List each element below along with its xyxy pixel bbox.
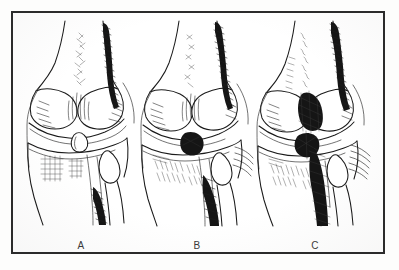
panel-label-c: C	[253, 240, 377, 251]
knee-illustration-b	[135, 19, 259, 227]
dense-ink-band-tibia-a	[93, 187, 106, 225]
figure-frame-border: A	[11, 11, 385, 254]
panel-label-a: A	[19, 240, 143, 251]
trabecular-hatching-c	[269, 159, 316, 190]
soft-tissue-hatching-b	[185, 35, 194, 87]
figure-panel-a: A	[19, 19, 143, 255]
panel-label-b: B	[135, 240, 259, 251]
soft-tissue-hatching-c	[286, 33, 309, 89]
trabecular-hatching-a	[41, 156, 83, 181]
knee-illustration-c	[253, 19, 377, 227]
knee-illustration-a	[19, 19, 143, 227]
panel-container: A	[13, 13, 383, 252]
figure-root: A	[0, 0, 399, 270]
figure-panel-c: C	[253, 19, 377, 255]
lateral-soft-tissue-b	[233, 147, 253, 176]
dense-ink-column-tibia-c	[309, 147, 328, 226]
knee-drawing-c	[257, 21, 370, 226]
figure-panel-b: B	[135, 19, 259, 255]
lateral-soft-tissue-c	[349, 145, 370, 179]
trabecular-hatching-b	[153, 155, 202, 186]
soft-tissue-hatching-a	[74, 33, 85, 85]
knee-drawing-a	[27, 21, 134, 225]
knee-drawing-b	[141, 21, 253, 226]
